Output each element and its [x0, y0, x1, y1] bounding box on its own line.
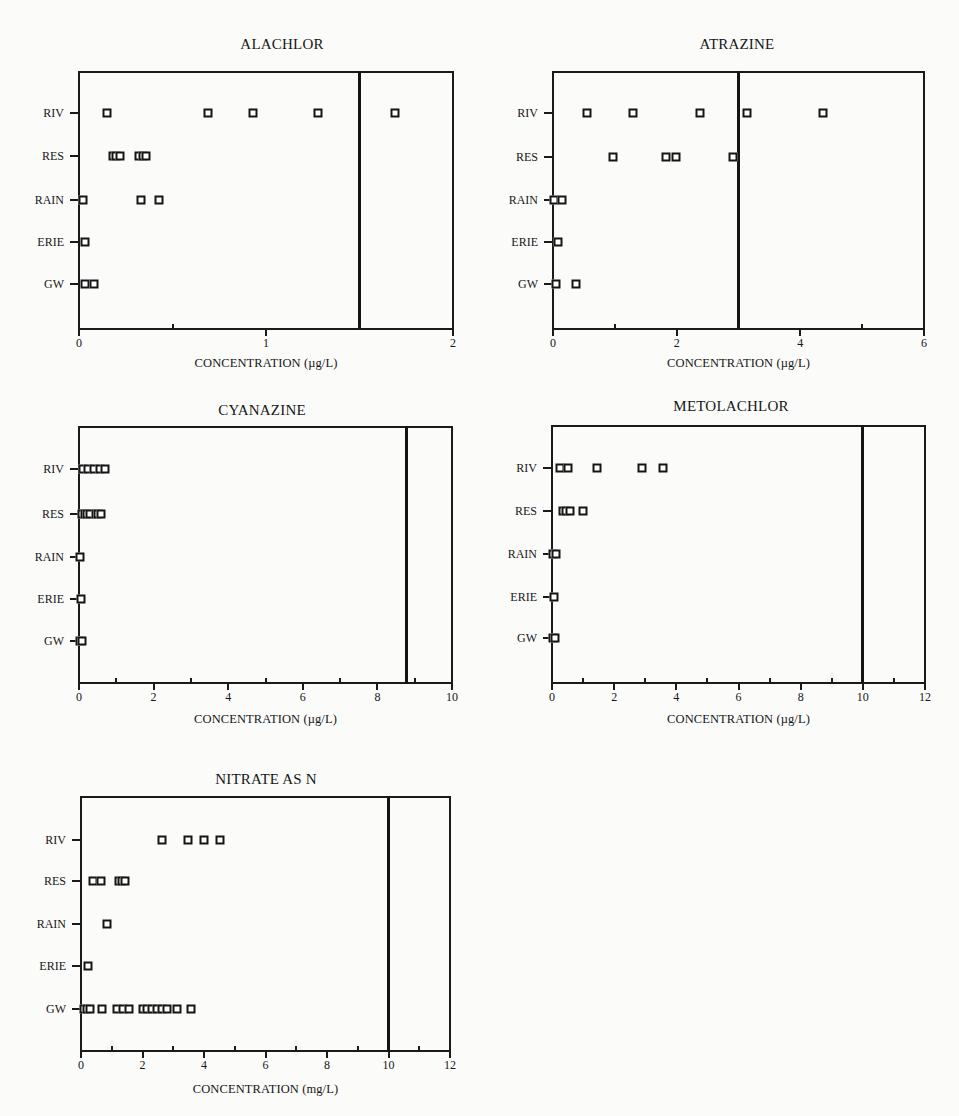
x-axis-tick-label: 4 [673, 690, 679, 705]
x-axis-major-tick [738, 682, 740, 690]
x-axis-major-tick [153, 682, 155, 690]
y-axis-category-label: ERIE [20, 592, 64, 607]
x-axis-minor-tick [861, 324, 863, 330]
y-axis-category-label: RIV [20, 106, 64, 121]
x-axis-major-tick [675, 682, 677, 690]
y-axis-tick [70, 155, 78, 157]
data-point-square-marker [103, 920, 112, 929]
reference-line [387, 796, 390, 1052]
y-axis-tick [70, 199, 78, 201]
y-axis-tick [72, 839, 80, 841]
x-axis-minor-tick [111, 1046, 113, 1052]
y-axis-category-label: ERIE [22, 959, 66, 974]
data-point-square-marker [187, 1005, 196, 1014]
y-axis-category-label: GW [20, 634, 64, 649]
y-axis-category-label: GW [22, 1002, 66, 1017]
x-axis-major-tick [449, 1050, 451, 1058]
data-point-square-marker [163, 1005, 172, 1014]
x-axis-tick-label: 10 [446, 690, 458, 705]
chart-title: ATRAZINE [700, 36, 775, 53]
data-point-square-marker [248, 109, 257, 118]
x-axis-major-tick [388, 1050, 390, 1058]
y-axis-tick [544, 241, 552, 243]
x-axis-tick-label: 8 [374, 690, 380, 705]
data-point-square-marker [89, 280, 98, 289]
data-point-square-marker [583, 109, 592, 118]
y-axis-tick [544, 112, 552, 114]
x-axis-minor-tick [359, 324, 361, 330]
y-axis-category-label: RAIN [20, 550, 64, 565]
x-axis-major-tick [78, 682, 80, 690]
plot-frame [551, 425, 926, 684]
x-axis-major-tick [799, 328, 801, 336]
data-point-square-marker [564, 464, 573, 473]
x-axis-minor-tick [644, 678, 646, 684]
x-axis-tick-label: 4 [797, 336, 803, 351]
data-point-square-marker [77, 595, 86, 604]
data-point-square-marker [672, 153, 681, 162]
data-point-square-marker [96, 877, 105, 886]
y-axis-category-label: RAIN [494, 193, 538, 208]
y-axis-category-label: RAIN [20, 193, 64, 208]
reference-line [405, 426, 408, 684]
x-axis-tick-label: 12 [444, 1058, 456, 1073]
y-axis-category-label: ERIE [494, 235, 538, 250]
x-axis-minor-tick [831, 678, 833, 684]
x-axis-tick-label: 4 [201, 1058, 207, 1073]
reference-line [737, 71, 740, 330]
data-point-square-marker [136, 196, 145, 205]
x-axis-minor-tick [582, 678, 584, 684]
data-point-square-marker [116, 152, 125, 161]
x-axis-tick-label: 6 [736, 690, 742, 705]
y-axis-category-label: RIV [20, 462, 64, 477]
data-point-square-marker [553, 238, 562, 247]
reference-line [861, 425, 864, 684]
x-axis-label: CONCENTRATION (µg/L) [194, 712, 337, 727]
chart-title: NITRATE AS N [215, 771, 317, 788]
x-axis-minor-tick [418, 1046, 420, 1052]
data-point-square-marker [204, 109, 213, 118]
x-axis-label: CONCENTRATION (µg/L) [667, 356, 810, 371]
x-axis-tick-label: 0 [550, 336, 556, 351]
y-axis-category-label: GW [493, 631, 537, 646]
reference-line [358, 71, 361, 330]
data-point-square-marker [84, 962, 93, 971]
data-point-square-marker [743, 109, 752, 118]
x-axis-tick-label: 0 [549, 690, 555, 705]
x-axis-tick-label: 2 [611, 690, 617, 705]
x-axis-minor-tick [414, 678, 416, 684]
x-axis-minor-tick [357, 1046, 359, 1052]
plot-frame [80, 796, 451, 1052]
data-point-square-marker [120, 877, 129, 886]
x-axis-tick-label: 2 [151, 690, 157, 705]
y-axis-category-label: RAIN [22, 917, 66, 932]
x-axis-minor-tick [190, 678, 192, 684]
y-axis-category-label: RES [20, 507, 64, 522]
plot-frame [78, 426, 453, 684]
data-point-square-marker [124, 1005, 133, 1014]
x-axis-major-tick [203, 1050, 205, 1058]
x-axis-minor-tick [769, 678, 771, 684]
x-axis-major-tick [613, 682, 615, 690]
data-point-square-marker [819, 109, 828, 118]
x-axis-major-tick [326, 1050, 328, 1058]
x-axis-tick-label: 8 [324, 1058, 330, 1073]
y-axis-tick [70, 283, 78, 285]
y-axis-category-label: RAIN [493, 547, 537, 562]
x-axis-major-tick [551, 682, 553, 690]
x-axis-tick-label: 6 [300, 690, 306, 705]
x-axis-tick-label: 2 [140, 1058, 146, 1073]
data-point-square-marker [314, 109, 323, 118]
x-axis-tick-label: 6 [921, 336, 927, 351]
data-point-square-marker [157, 836, 166, 845]
data-point-square-marker [593, 464, 602, 473]
data-point-square-marker [77, 637, 86, 646]
x-axis-tick-label: 10 [383, 1058, 395, 1073]
chart-title: METOLACHLOR [673, 398, 788, 415]
data-point-square-marker [80, 280, 89, 289]
x-axis-tick-label: 2 [674, 336, 680, 351]
data-point-square-marker [391, 109, 400, 118]
y-axis-tick [72, 923, 80, 925]
data-point-square-marker [172, 1005, 181, 1014]
x-axis-major-tick [80, 1050, 82, 1058]
